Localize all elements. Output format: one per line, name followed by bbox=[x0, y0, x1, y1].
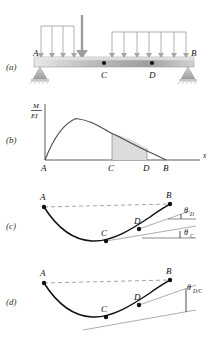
label-point-D-panel-b: D bbox=[142, 163, 150, 173]
theta-D-symbol: θ bbox=[184, 206, 188, 215]
moment-axis-numerator: M bbox=[32, 102, 40, 110]
panel-b: (b) M EI x A C D B bbox=[6, 102, 207, 173]
label-point-D-panel-a: D bbox=[148, 70, 156, 80]
theta-DC-symbol: θ bbox=[187, 283, 191, 292]
theta-D-subscript: D bbox=[189, 211, 194, 217]
shaded-area-CD bbox=[112, 134, 147, 160]
moment-x-axis-label: x bbox=[202, 151, 207, 160]
beam-highlight bbox=[34, 57, 194, 60]
label-point-B-panel-b: B bbox=[163, 163, 169, 173]
tangent-line-at-C-c bbox=[106, 226, 196, 241]
panel-b-label: (b) bbox=[6, 135, 17, 145]
beam-deflection-figure: (a) bbox=[0, 0, 215, 337]
support-A-triangle bbox=[33, 67, 47, 79]
chord-AB-dashed-d bbox=[44, 280, 170, 283]
right-distributed-load bbox=[112, 32, 186, 54]
angle-label-theta-C: θ C bbox=[184, 228, 194, 239]
label-point-A-panel-b: A bbox=[40, 163, 47, 173]
panel-d: (d) A C D B θ D/C bbox=[6, 266, 203, 330]
support-A-pin bbox=[30, 67, 49, 84]
panel-c: (c) A C D B θ D θ C bbox=[6, 190, 196, 243]
angle-label-theta-D-over-C: θ D/C bbox=[187, 283, 203, 294]
node-C-d bbox=[104, 315, 108, 319]
moment-axis-denominator: EI bbox=[30, 112, 38, 120]
node-C-c bbox=[104, 239, 108, 243]
support-B-triangle bbox=[181, 67, 195, 79]
label-point-D-panel-d: D bbox=[133, 292, 141, 302]
support-B-roller bbox=[178, 67, 197, 84]
node-D-d bbox=[137, 303, 141, 307]
node-D-c bbox=[137, 227, 141, 231]
beam-point-D bbox=[150, 61, 154, 65]
theta-C-symbol: θ bbox=[184, 228, 188, 237]
left-distributed-load bbox=[41, 26, 74, 54]
label-point-C-panel-c: C bbox=[101, 228, 108, 238]
label-point-C-panel-b: C bbox=[108, 163, 115, 173]
label-point-A-panel-c: A bbox=[39, 192, 46, 202]
panel-c-label: (c) bbox=[6, 221, 16, 231]
label-point-B-panel-c: B bbox=[166, 190, 172, 200]
label-point-A-panel-a: A bbox=[32, 48, 39, 58]
label-point-B-panel-d: B bbox=[166, 266, 172, 276]
support-A-hatch bbox=[30, 82, 48, 84]
theta-DC-subscript: D/C bbox=[192, 288, 203, 294]
label-point-C-panel-a: C bbox=[101, 70, 108, 80]
node-B-c bbox=[168, 202, 172, 206]
support-B-ground bbox=[179, 79, 197, 82]
support-B-hatch bbox=[178, 82, 196, 84]
moment-curve bbox=[45, 119, 166, 161]
panel-d-label: (d) bbox=[6, 297, 17, 307]
tangent-line-at-C-d bbox=[83, 310, 196, 330]
node-B-d bbox=[168, 278, 172, 282]
panel-a: (a) bbox=[6, 15, 197, 84]
moment-axis-label: M EI bbox=[30, 102, 42, 120]
node-A-d bbox=[42, 281, 46, 285]
label-point-C-panel-d: C bbox=[101, 304, 108, 314]
theta-C-subscript: C bbox=[190, 233, 194, 239]
label-point-B-panel-a: B bbox=[191, 48, 197, 58]
chord-AB-dashed-c bbox=[44, 204, 170, 207]
label-point-A-panel-d: A bbox=[39, 268, 46, 278]
support-A-ground bbox=[31, 79, 49, 82]
panel-a-label: (a) bbox=[6, 62, 17, 72]
beam-point-C bbox=[102, 61, 106, 65]
label-point-D-panel-c: D bbox=[133, 216, 141, 226]
node-A-c bbox=[42, 205, 46, 209]
